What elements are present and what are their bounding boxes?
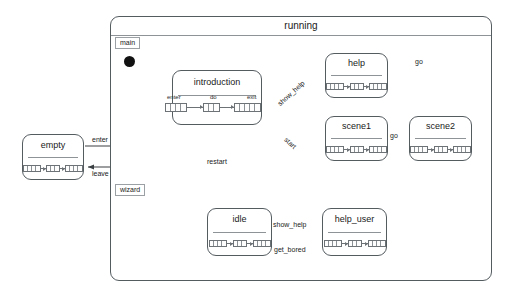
mini-link [344, 86, 350, 87]
state-scene1[interactable]: scene1 [325, 116, 388, 161]
state-running-title: running [111, 17, 491, 31]
mini-seg [369, 146, 387, 153]
state-introduction-title: introduction [173, 71, 261, 87]
state-idle-title: idle [208, 209, 271, 224]
mini-seg [46, 165, 60, 172]
compartment-label-exit: exit [247, 94, 256, 100]
state-help-user-divider [328, 232, 381, 233]
mini-link [41, 168, 46, 169]
transition-label-show-help-wizard: show_help [273, 221, 306, 228]
state-help-divider [331, 75, 382, 76]
mini-seg [350, 146, 364, 153]
transition-label-go-scene: go [390, 132, 398, 139]
mini-link [187, 107, 203, 108]
mini-seg [348, 240, 362, 247]
compartment-label-enter: enter [167, 94, 181, 100]
state-running-divider [111, 35, 491, 36]
mini-seg-exit [234, 103, 261, 112]
mini-link [342, 243, 348, 244]
state-help-mini [326, 83, 387, 90]
mini-seg [453, 146, 471, 153]
mini-link [362, 243, 368, 244]
state-empty-divider [28, 157, 78, 158]
compartment-label-do: do [210, 94, 217, 100]
initial-state-icon [124, 56, 135, 67]
state-empty-mini [23, 165, 83, 172]
mini-seg [368, 240, 386, 247]
mini-link [220, 107, 234, 108]
state-scene1-mini [326, 146, 387, 153]
region-tab-main-label: main [120, 39, 135, 46]
state-introduction-divider [178, 95, 256, 96]
mini-seg [209, 240, 227, 247]
state-empty-title: empty [23, 135, 83, 150]
state-idle[interactable]: idle [207, 208, 272, 256]
mini-seg [410, 146, 428, 153]
mini-seg [233, 240, 247, 247]
mini-seg [350, 83, 364, 90]
state-idle-divider [213, 232, 266, 233]
mini-link [344, 149, 350, 150]
mini-seg-enter [165, 103, 187, 112]
state-help-user-mini [323, 240, 386, 247]
mini-seg [326, 146, 344, 153]
mini-link [364, 149, 370, 150]
state-help[interactable]: help [325, 53, 388, 98]
region-tab-wizard-label: wizard [120, 186, 140, 193]
state-help-title: help [326, 54, 387, 68]
transition-label-leave: leave [92, 170, 109, 177]
mini-seg-do [203, 103, 220, 112]
region-tab-wizard[interactable]: wizard [115, 184, 145, 196]
mini-seg [434, 146, 448, 153]
mini-seg [369, 83, 387, 90]
state-help-user-title: help_user [323, 209, 386, 224]
statechart-diagram: empty running main wizard introduction e… [0, 0, 505, 295]
state-empty[interactable]: empty [22, 134, 84, 180]
mini-seg [23, 165, 41, 172]
state-scene2-divider [415, 138, 466, 139]
state-scene2-mini [410, 146, 471, 153]
transition-label-go-help: go [415, 58, 423, 65]
mini-seg [324, 240, 342, 247]
mini-link [364, 86, 370, 87]
state-scene2[interactable]: scene2 [409, 116, 472, 161]
mini-link [227, 243, 233, 244]
mini-link [247, 243, 253, 244]
mini-seg [253, 240, 271, 247]
transition-label-get-bored: get_bored [274, 246, 306, 253]
mini-link [448, 149, 454, 150]
introduction-compartment-row [165, 101, 275, 113]
state-help-user[interactable]: help_user [322, 208, 387, 256]
mini-link [428, 149, 434, 150]
state-scene1-title: scene1 [326, 117, 387, 131]
state-scene1-divider [331, 138, 382, 139]
state-scene2-title: scene2 [410, 117, 471, 131]
state-idle-mini [208, 240, 271, 247]
region-tab-main[interactable]: main [115, 37, 140, 49]
mini-link [60, 168, 65, 169]
transition-label-enter: enter [92, 136, 108, 143]
mini-seg [65, 165, 83, 172]
transition-label-restart: restart [207, 158, 227, 165]
mini-seg [326, 83, 344, 90]
